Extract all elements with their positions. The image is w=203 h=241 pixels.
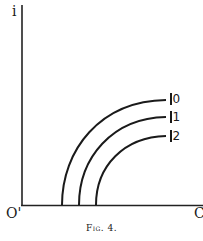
origin-label: O' — [6, 206, 21, 220]
y-axis-label: i — [12, 4, 16, 18]
figure-4: i O' C 0 1 2 Fig. 4. — [0, 0, 203, 241]
curve-label-i0-sub: 0 — [173, 92, 180, 106]
curve-label-i2: 2 — [170, 130, 180, 142]
x-axis-label: C — [194, 206, 203, 220]
curve-label-i0: 0 — [170, 93, 180, 105]
curve-label-i2-sub: 2 — [173, 129, 180, 143]
curve-i0 — [62, 100, 166, 205]
curve-i2 — [96, 136, 166, 205]
curve-label-i1-sub: 1 — [173, 110, 180, 124]
figure-caption: Fig. 4. — [0, 223, 203, 233]
curve-label-i1: 1 — [170, 111, 180, 123]
